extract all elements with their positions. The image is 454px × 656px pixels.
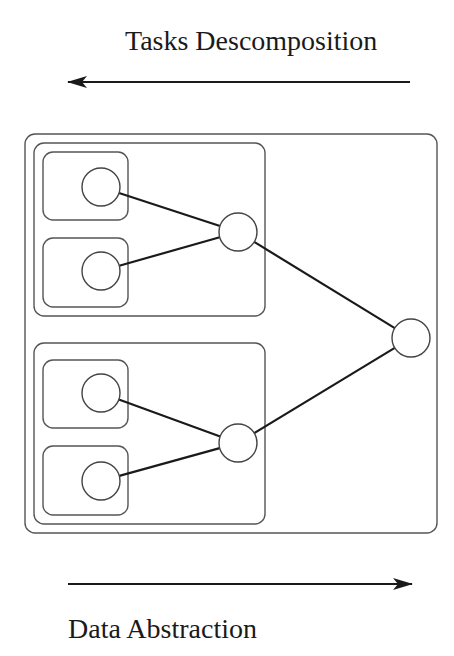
leaf-node bbox=[82, 252, 120, 290]
leaf-node bbox=[82, 462, 120, 500]
hub-node bbox=[219, 213, 257, 251]
edge bbox=[119, 237, 219, 266]
edge bbox=[254, 242, 395, 328]
bottom-label: Data Abstraction bbox=[68, 613, 257, 644]
groups-layer bbox=[34, 143, 395, 524]
leaf-node bbox=[82, 168, 120, 206]
edge bbox=[119, 400, 220, 437]
root-node bbox=[392, 319, 430, 357]
edge bbox=[119, 193, 220, 226]
edge bbox=[254, 348, 395, 433]
top-label: Tasks Descomposition bbox=[125, 25, 377, 56]
edge bbox=[119, 448, 219, 476]
hub-node bbox=[219, 424, 257, 462]
hierarchy-diagram: Tasks Descomposition Data Abstraction bbox=[0, 0, 454, 656]
leaf-node bbox=[82, 374, 120, 412]
